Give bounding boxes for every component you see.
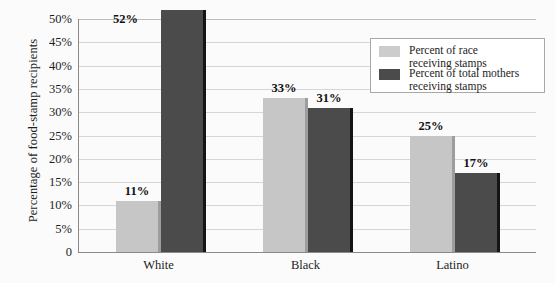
bar-shadow-edge (350, 108, 353, 252)
bar-body (455, 173, 497, 252)
bar (116, 201, 158, 252)
bar (263, 98, 305, 252)
y-axis-tick-label: 10% (12, 198, 72, 213)
bar-value-label: 25% (419, 119, 444, 134)
bar (161, 10, 203, 252)
bar (410, 136, 452, 253)
bar-body (410, 136, 452, 253)
x-axis-category-label: White (143, 258, 174, 273)
legend-label: Percent of total mothers receiving stamp… (409, 67, 519, 92)
bar-body (116, 201, 158, 252)
bar-body (161, 10, 203, 252)
y-axis-tick-label: 20% (12, 151, 72, 166)
y-axis-tick-labels: 50%45%40%35%30%25%20%15%10%5%0 (8, 19, 72, 252)
legend-swatch (379, 46, 400, 57)
bar (308, 108, 350, 252)
x-axis-category-label: Black (291, 258, 320, 273)
y-axis-tick-label: 0 (12, 245, 72, 260)
bar-shadow-edge (497, 173, 500, 252)
legend-label: Percent of race receiving stamps (409, 44, 487, 69)
y-axis-tick-label: 30% (12, 105, 72, 120)
legend-swatch (379, 69, 400, 80)
bar-body (263, 98, 305, 252)
bar-value-label: 31% (317, 91, 342, 106)
bar-value-label: 52% (113, 12, 138, 27)
legend-item: Percent of race receiving stamps (379, 44, 487, 69)
chart-legend: Percent of race receiving stampsPercent … (370, 38, 545, 93)
y-axis-tick-label: 15% (12, 175, 72, 190)
x-axis-category-label: Latino (436, 258, 469, 273)
y-axis-tick-label: 35% (12, 81, 72, 96)
y-axis-tick-label: 40% (12, 58, 72, 73)
bar-chart: Percentage of food-stamp recipients 50%4… (0, 0, 555, 283)
y-axis-tick-label: 5% (12, 221, 72, 236)
bar-shadow-edge (203, 10, 206, 252)
y-axis-tick-label: 45% (12, 35, 72, 50)
y-axis-tick-label: 25% (12, 128, 72, 143)
bar-body (308, 108, 350, 252)
legend-item: Percent of total mothers receiving stamp… (379, 67, 519, 92)
gridline (79, 19, 536, 20)
y-axis-tick-label: 50% (12, 12, 72, 27)
bar-value-label: 11% (125, 184, 149, 199)
bar-value-label: 17% (464, 156, 489, 171)
bar-value-label: 33% (272, 81, 297, 96)
bar (455, 173, 497, 252)
